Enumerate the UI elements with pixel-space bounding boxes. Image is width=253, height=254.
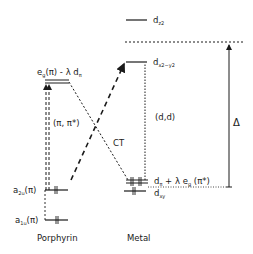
pipi-label: (π, π*) [53, 118, 80, 128]
dd-label: (d,d) [155, 112, 175, 122]
dz2-label: dz2 [153, 15, 164, 26]
delta-label: Δ [233, 117, 240, 128]
eg-dpi-mixing-line [69, 82, 128, 180]
eg-label: eg(π) - λ dπ [37, 67, 82, 79]
metal-column-label: Metal [127, 233, 150, 243]
dpi-electrons [131, 177, 141, 186]
dxy-label: dxy [154, 188, 165, 200]
dpi-label: dπ + λ eg (π*) [154, 176, 210, 188]
a2u-label: a2u(π) [13, 185, 36, 196]
ct-label: CT [113, 138, 125, 148]
energy-level-diagram: dz2 dx2−y2 eg(π) - λ dπ (π, π*) CT (d,d)… [0, 0, 253, 254]
dx2y2-label: dx2−y2 [153, 57, 175, 69]
porphyrin-column-label: Porphyrin [37, 233, 78, 243]
a1u-label: a1u(π) [15, 215, 38, 226]
